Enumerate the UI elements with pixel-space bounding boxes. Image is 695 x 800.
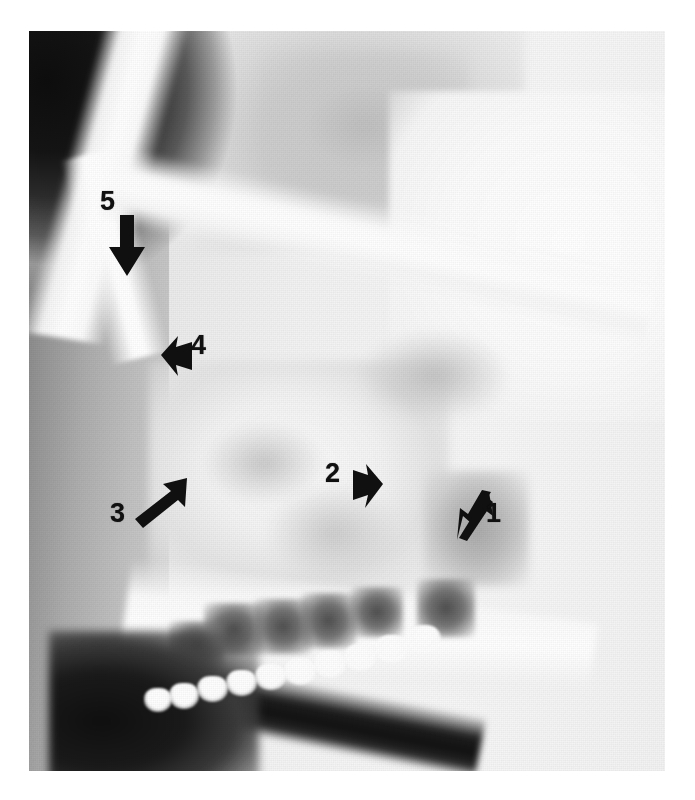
tooth-root-shadow [301,593,356,648]
tooth-crown [314,651,346,678]
tooth-crown [344,644,376,671]
annotation-label-3: 3 [110,500,125,527]
annotation-arrow-5[interactable] [107,215,147,277]
annotation-label-5: 5 [100,188,115,215]
tooth-crown [144,688,172,712]
arrow-5-icon [107,215,147,277]
tooth-crown [255,664,286,690]
tooth-crown [197,676,228,702]
radiograph-figure: 12345 [0,0,695,800]
tooth-root-shadow [351,587,403,637]
annotation-arrow-3[interactable] [133,478,189,530]
tooth-crown [226,670,257,696]
arrow-3-icon [133,478,189,530]
tooth-crown [375,635,408,663]
annotation-label-1: 1 [486,500,501,527]
annotation-label-4: 4 [191,332,206,359]
sinus-opacity-patch [359,331,509,421]
radiograph-plate [29,31,665,771]
arrow-4-icon [161,334,193,378]
tooth-crown [284,658,316,685]
tooth-crown [169,683,199,709]
annotation-arrow-4[interactable] [161,334,193,378]
arrow-2-icon [352,462,384,510]
annotation-label-2: 2 [325,460,340,487]
tooth-crown [407,625,441,654]
annotation-arrow-2[interactable] [352,462,384,510]
